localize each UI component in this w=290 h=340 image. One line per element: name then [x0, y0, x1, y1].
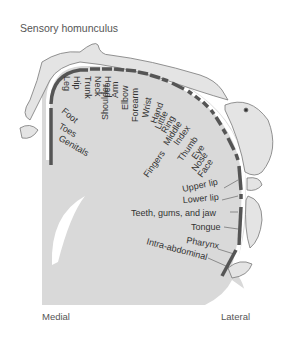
label-leg: Leg: [62, 76, 72, 91]
axis-label-medial: Medial: [42, 311, 70, 322]
label-teeth: Teeth, gums, and jaw: [131, 208, 217, 218]
homunculus-diagram: Leg Hip Trunk Neck Head Shoulder Arm Elb…: [0, 0, 290, 340]
label-trunk: Trunk: [83, 76, 93, 99]
label-tongue: Tongue: [191, 222, 221, 232]
label-elbow: Elbow: [120, 85, 130, 110]
label-hip: Hip: [72, 76, 82, 90]
label-forearm: Forearm: [130, 88, 140, 122]
label-arm: Arm: [110, 82, 120, 99]
axis-label-lateral: Lateral: [221, 311, 250, 322]
label-shoulder: Shoulder: [100, 84, 110, 120]
